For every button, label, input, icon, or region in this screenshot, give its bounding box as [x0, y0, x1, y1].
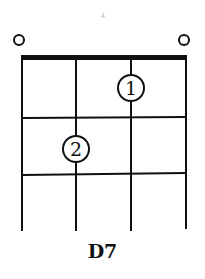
- nut: [21, 55, 187, 60]
- chord-name: D7: [0, 240, 205, 262]
- frets: [22, 117, 186, 175]
- open-string-icon: [179, 35, 189, 45]
- finger-1-dot: 1: [118, 75, 144, 101]
- finger-2-dot: 2: [63, 136, 89, 162]
- chord-diagram: 4 1 2: [0, 0, 205, 279]
- faint-mark: 4: [101, 12, 106, 20]
- open-string-icon: [14, 35, 24, 45]
- strings: [22, 57, 186, 231]
- svg-text:1: 1: [125, 77, 137, 99]
- svg-text:2: 2: [70, 138, 82, 160]
